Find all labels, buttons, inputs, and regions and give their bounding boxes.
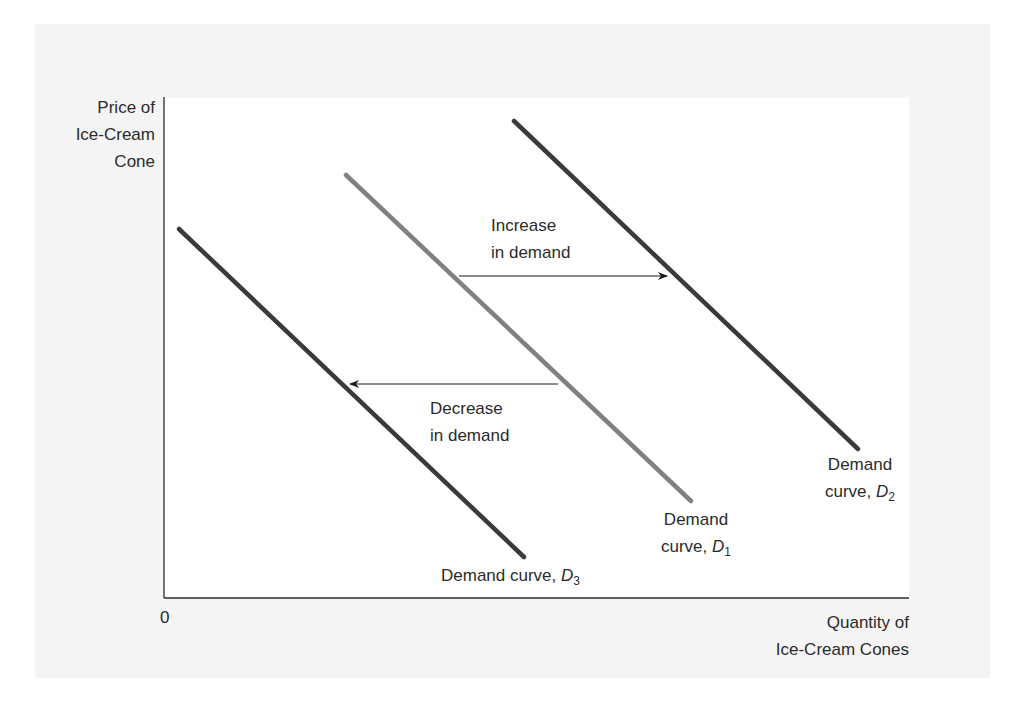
curve-symbol: D	[876, 482, 888, 501]
increase-label-line: in demand	[491, 239, 570, 266]
increase-label-line: Increase	[491, 212, 570, 239]
demand-curve-d2	[514, 121, 858, 449]
curve-symbol: D	[712, 537, 724, 556]
x-axis-label: Quantity of Ice-Cream Cones	[700, 609, 909, 663]
curve-subscript: 3	[573, 574, 580, 588]
curve-label-prefix: curve,	[661, 537, 712, 556]
y-axis-label-line: Price of	[40, 94, 155, 121]
curve-subscript: 2	[888, 490, 895, 504]
curve-subscript: 1	[724, 545, 731, 559]
curve-label-line: Demand	[636, 506, 756, 533]
curve-symbol: D	[561, 566, 573, 585]
decrease-in-demand-label: Decrease in demand	[430, 395, 509, 449]
decrease-label-line: Decrease	[430, 395, 509, 422]
curve-label-line: Demand	[800, 451, 920, 478]
curve-label-prefix: curve,	[825, 482, 876, 501]
curve-label-line: curve, D2	[800, 478, 920, 511]
demand-curve-d3	[179, 229, 524, 557]
y-axis-label: Price of Ice-Cream Cone	[40, 94, 155, 175]
demand-curve-d3-label: Demand curve, D3	[441, 562, 580, 595]
demand-curve-d2-label: Demand curve, D2	[800, 451, 920, 511]
y-axis-label-line: Cone	[40, 148, 155, 175]
increase-in-demand-label: Increase in demand	[491, 212, 570, 266]
curve-label-line: curve, D1	[636, 533, 756, 566]
x-axis-label-line: Quantity of	[700, 609, 909, 636]
decrease-label-line: in demand	[430, 422, 509, 449]
demand-curve-d1-label: Demand curve, D1	[636, 506, 756, 566]
origin-label: 0	[160, 604, 169, 631]
y-axis-label-line: Ice-Cream	[40, 121, 155, 148]
x-axis-label-line: Ice-Cream Cones	[700, 636, 909, 663]
curve-label-prefix: Demand curve,	[441, 566, 561, 585]
